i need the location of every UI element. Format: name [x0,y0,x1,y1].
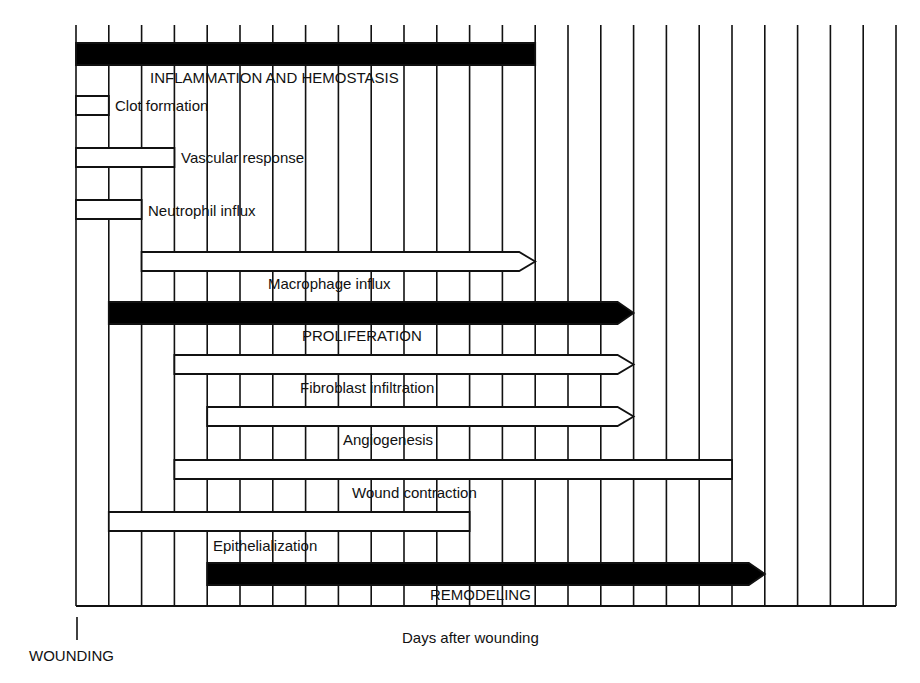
label-wound-contraction: Wound contraction [352,485,477,500]
label-fibroblast-infiltration: Fibroblast infiltration [300,380,434,395]
label-remodeling: REMODELING [430,587,531,602]
bar-inflammation-and-hemostasis [76,43,535,65]
label-neutrophil-influx: Neutrophil influx [148,203,256,218]
label-proliferation: PROLIFERATION [302,328,422,343]
label-macrophage-influx: Macrophage influx [268,276,391,291]
label-inflammation-hemostasis: INFLAMMATION AND HEMOSTASIS [150,70,399,85]
wound-healing-timeline-chart: INFLAMMATION AND HEMOSTASIS Clot formati… [0,0,920,683]
bar-remodeling [207,563,765,585]
bar-epithelialization [109,512,470,531]
bar-neutrophil-influx [76,200,142,219]
bar-angiogenesis [207,407,633,426]
bar-macrophage-influx [142,252,536,271]
label-epithelialization: Epithelialization [213,538,317,553]
x-axis-label: Days after wounding [402,630,539,645]
bar-wound-contraction [174,460,732,479]
bar-fibroblast-infiltration [174,355,633,374]
label-vascular-response: Vascular response [181,150,304,165]
bar-proliferation [109,302,634,324]
bar-clot-formation [76,96,109,115]
label-clot-formation: Clot formation [115,98,208,113]
bar-vascular-response [76,148,174,167]
label-angiogenesis: Angiogenesis [343,432,433,447]
wounding-label: WOUNDING [29,648,114,663]
